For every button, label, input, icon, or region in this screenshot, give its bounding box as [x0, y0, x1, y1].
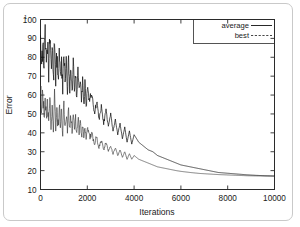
x-tick-label: 8000	[219, 194, 238, 203]
x-axis-title: Iterations	[139, 207, 174, 217]
x-axis-ticks	[41, 20, 275, 190]
x-axis-tick-labels: 0200040006000800010000	[38, 194, 286, 203]
y-tick-label: 30	[27, 148, 37, 157]
y-axis-ticks	[41, 20, 275, 190]
y-tick-label: 40	[27, 129, 37, 138]
x-tick-label: 4000	[125, 194, 144, 203]
y-tick-label: 50	[27, 110, 37, 119]
legend-label-average: average	[222, 21, 249, 30]
y-axis-tick-labels: 102030405060708090100	[23, 16, 37, 195]
series-line-best	[41, 86, 275, 176]
series-line-average	[41, 24, 275, 175]
y-tick-label: 70	[27, 72, 37, 81]
y-tick-label: 60	[27, 91, 37, 100]
y-tick-label: 80	[27, 53, 37, 62]
figure-root: 0200040006000800010000 10203040506070809…	[0, 0, 300, 227]
convergence-chart: 0200040006000800010000 10203040506070809…	[0, 0, 300, 227]
legend: average best	[194, 20, 275, 44]
y-tick-label: 90	[27, 34, 37, 43]
y-tick-label: 10	[27, 186, 37, 195]
y-axis-title: Error	[4, 95, 14, 114]
legend-label-best: best	[235, 31, 250, 40]
x-tick-label: 0	[38, 194, 43, 203]
x-tick-label: 10000	[263, 194, 286, 203]
plot-frame	[41, 20, 275, 190]
x-tick-label: 6000	[172, 194, 191, 203]
x-tick-label: 2000	[78, 194, 97, 203]
ytick-prefix-artifact: 1	[24, 14, 27, 20]
y-tick-label: 20	[27, 167, 37, 176]
